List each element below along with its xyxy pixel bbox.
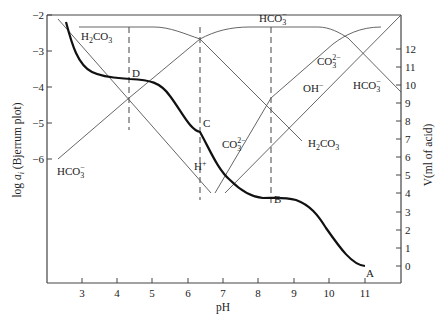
label-co3-mid: CO32− (222, 136, 246, 153)
bjerrum-titration-chart: 3 4 5 6 7 8 9 10 11 pH −2 −3 −4 −5 −6 lo… (0, 0, 440, 320)
label-hco3-right: HCO3− (353, 77, 381, 94)
point-label-a: A (366, 267, 374, 279)
label-co3-right: CO32− (317, 53, 341, 70)
label-hco3-left: HCO3− (57, 163, 85, 180)
x-tick-label: 6 (185, 287, 191, 299)
y-right-tick-label: 11 (405, 61, 416, 73)
species-labels: H2CO3 HCO3− CO32− HCO3− OH− H2CO3 CO32− … (57, 10, 381, 180)
x-tick-label: 11 (360, 287, 371, 299)
y-right-tick-label: 0 (405, 260, 411, 272)
y-left-axis-title: log ai (Bjerrum plot) (11, 102, 26, 197)
y-left-ticks (47, 15, 52, 159)
label-oh-minus: OH− (303, 81, 324, 94)
point-label-b: B (274, 193, 281, 205)
y-right-tick-label: 4 (405, 187, 411, 199)
x-tick-label: 7 (220, 287, 226, 299)
label-hco3-top: HCO3− (259, 10, 287, 27)
x-axis-tick-labels: 3 4 5 6 7 8 9 10 11 (79, 287, 370, 299)
y-right-tick-label: 7 (405, 133, 411, 145)
y-right-tick-label: 9 (405, 97, 411, 109)
y-right-tick-label: 5 (405, 169, 411, 181)
point-labels: A B C D (132, 67, 374, 279)
x-axis-ticks (82, 278, 365, 283)
x-tick-label: 9 (291, 287, 297, 299)
label-h-plus: H+ (194, 159, 207, 172)
x-tick-label: 3 (79, 287, 85, 299)
y-left-tick-label: −3 (32, 45, 44, 57)
x-tick-label: 5 (149, 287, 155, 299)
y-right-tick-labels: 0 1 2 3 4 5 6 7 8 9 10 11 12 (405, 43, 417, 272)
y-right-tick-label: 1 (405, 242, 411, 254)
y-right-ticks (396, 49, 401, 266)
y-left-tick-labels: −2 −3 −4 −5 −6 (32, 9, 44, 165)
y-right-axis-title: V(ml of acid) (422, 124, 435, 187)
y-right-tick-label: 12 (405, 43, 416, 55)
y-right-tick-label: 10 (405, 79, 417, 91)
point-label-c: C (203, 117, 210, 129)
y-left-tick-label: −5 (32, 117, 44, 129)
label-h2co3-top: H2CO3 (81, 30, 112, 45)
x-tick-label: 4 (114, 287, 120, 299)
label-h2co3-right: H2CO3 (308, 137, 339, 152)
x-axis-title: pH (216, 301, 230, 314)
x-tick-label: 8 (255, 287, 261, 299)
y-left-tick-label: −4 (32, 81, 44, 93)
point-label-d: D (132, 67, 140, 79)
oh-minus-line (225, 15, 401, 193)
y-right-tick-label: 6 (405, 151, 411, 163)
co3-line (215, 27, 381, 193)
y-left-tick-label: −2 (32, 9, 44, 21)
y-right-tick-label: 8 (405, 115, 411, 127)
y-right-tick-label: 3 (405, 206, 411, 218)
y-right-tick-label: 2 (405, 224, 411, 236)
x-tick-label: 10 (324, 287, 336, 299)
y-left-tick-label: −6 (32, 153, 44, 165)
equivalence-dashed-lines (129, 27, 271, 204)
